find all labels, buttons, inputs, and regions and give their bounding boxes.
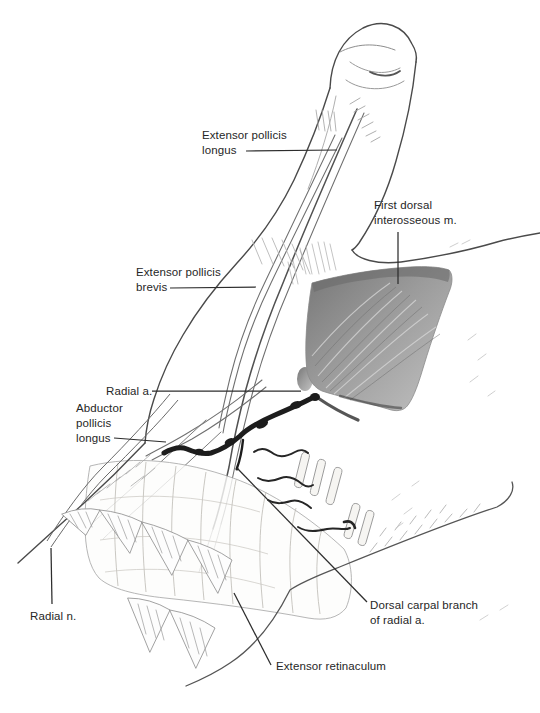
thumb-tip-outline bbox=[330, 24, 417, 88]
label-extensor-retinaculum: Extensor retinaculum bbox=[276, 659, 386, 674]
label-first-dorsal-interosseous: First dorsal interosseous m. bbox=[374, 198, 457, 228]
label-dorsal-carpal-branch: Dorsal carpal branch of radial a. bbox=[370, 598, 478, 628]
anatomy-figure: Extensor pollicis longus First dorsal in… bbox=[0, 0, 540, 713]
dorsum-outline bbox=[352, 233, 540, 263]
radial-artery-vessel bbox=[164, 393, 401, 471]
first-dorsal-interosseous-muscle bbox=[297, 267, 452, 411]
label-abductor-pollicis-longus: Abductor pollicis longus bbox=[76, 401, 123, 446]
label-radial-artery: Radial a. bbox=[106, 384, 152, 399]
label-extensor-pollicis-brevis: Extensor pollicis brevis bbox=[136, 265, 221, 295]
leader-radial-nerve bbox=[51, 548, 52, 604]
label-extensor-pollicis-longus: Extensor pollicis longus bbox=[202, 128, 287, 158]
label-radial-nerve: Radial n. bbox=[30, 609, 76, 624]
